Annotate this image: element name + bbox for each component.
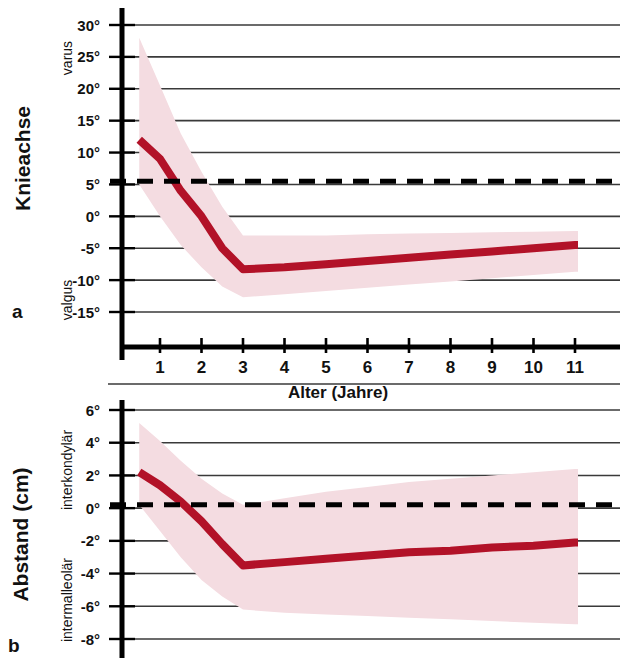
- direction-label-top-a: varus: [59, 41, 75, 75]
- y-tick-label-a-0: 30°: [77, 17, 100, 34]
- figure-knieachse-abstand: 30°25°20°15°10°5°0°-5°-10°-15°Knieachsev…: [0, 0, 631, 661]
- y-tick-label-b-5: -4°: [81, 565, 100, 582]
- y-tick-label-a-1: 25°: [77, 48, 100, 65]
- x-tick-label-4: 5: [321, 358, 330, 377]
- x-tick-label-6: 7: [404, 358, 413, 377]
- y-tick-label-a-5: 5°: [86, 176, 100, 193]
- x-tick-label-3: 4: [280, 358, 290, 377]
- y-tick-label-a-8: -10°: [72, 272, 100, 289]
- y-tick-label-a-2: 20°: [77, 80, 100, 97]
- x-tick-label-8: 9: [487, 358, 496, 377]
- y-tick-label-a-4: 10°: [77, 144, 100, 161]
- y-tick-label-a-7: -5°: [81, 240, 100, 257]
- y-tick-label-a-9: -15°: [72, 304, 100, 321]
- panel-axis-title-b: Abstand (cm): [9, 467, 32, 601]
- y-tick-label-b-4: -2°: [81, 532, 100, 549]
- panel-letter-a: a: [12, 301, 23, 322]
- x-tick-label-2: 3: [238, 358, 247, 377]
- direction-label-top-b: interkondylär: [59, 430, 75, 510]
- y-tick-label-b-2: 2°: [86, 467, 100, 484]
- y-tick-label-b-3: 0°: [86, 500, 100, 517]
- x-tick-label-5: 6: [363, 358, 372, 377]
- y-tick-label-a-3: 15°: [77, 112, 100, 129]
- chart-canvas: 30°25°20°15°10°5°0°-5°-10°-15°Knieachsev…: [0, 0, 631, 661]
- x-tick-label-9: 10: [524, 358, 543, 377]
- panel-axis-title-a: Knieachse: [11, 106, 34, 211]
- y-tick-label-a-6: 0°: [86, 208, 100, 225]
- x-tick-label-0: 1: [155, 358, 164, 377]
- direction-label-bottom-a: valgus: [59, 280, 75, 320]
- y-tick-label-b-7: -8°: [81, 631, 100, 648]
- x-tick-label-10: 11: [566, 358, 584, 377]
- x-tick-label-7: 8: [446, 358, 455, 377]
- x-axis-title: Alter (Jahre): [288, 383, 388, 402]
- y-tick-label-b-1: 4°: [86, 434, 100, 451]
- panel-letter-b: b: [8, 635, 20, 656]
- direction-label-bottom-b: intermalleolär: [59, 558, 75, 642]
- x-tick-label-1: 2: [197, 358, 206, 377]
- y-tick-label-b-0: 6°: [86, 402, 100, 419]
- y-tick-label-b-6: -6°: [81, 598, 100, 615]
